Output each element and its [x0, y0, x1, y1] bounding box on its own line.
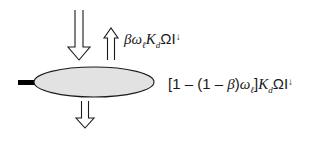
petiole-stem — [18, 80, 35, 85]
beta-symbol: β — [227, 76, 234, 92]
diagram-canvas — [0, 0, 316, 148]
prefix-term: [1 – (1 – — [168, 75, 227, 92]
reflected-arrow-icon — [104, 28, 118, 60]
transmitted-arrow-icon — [76, 101, 94, 128]
down-arrow-icon: ↓ — [176, 31, 181, 42]
leaf-ellipse — [34, 67, 154, 97]
k-symbol: K — [258, 76, 268, 92]
down-arrow-icon: ↓ — [288, 76, 293, 87]
omega-symbol: ω — [131, 31, 142, 47]
incoming-arrow-icon — [68, 10, 90, 60]
omega-symbol: ω — [240, 76, 251, 92]
absorbed-flux-label: [1 – (1 – β)ωℓ]KdΩI↓ — [168, 75, 293, 95]
reflected-flux-label: βωℓKdΩI↓ — [124, 30, 181, 50]
omega-i-term: ΩI — [160, 30, 175, 47]
k-symbol: K — [146, 31, 156, 47]
omega-i-term: ΩI — [273, 75, 288, 92]
